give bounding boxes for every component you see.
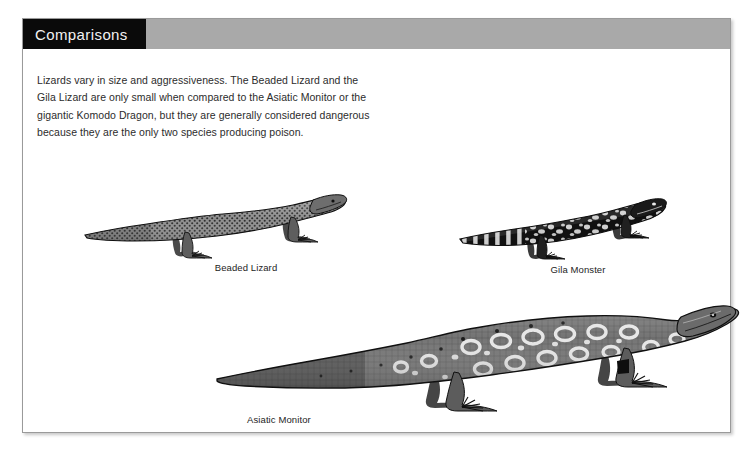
section-header-bar: Comparisons [23, 19, 730, 49]
figure-caption-gila-monster: Gila Monster [457, 264, 669, 275]
gila-monster-illustration [457, 195, 669, 261]
intro-paragraph: Lizards vary in size and aggressiveness.… [37, 72, 377, 142]
figure-caption-beaded-lizard: Beaded Lizard [81, 262, 349, 273]
section-title-block: Comparisons [23, 19, 146, 49]
document-page: Comparisons Lizards vary in size and agg… [22, 18, 731, 433]
page-title: Comparisons [35, 26, 128, 43]
figure-caption-asiatic-monitor: Asiatic Monitor [215, 414, 741, 425]
asiatic-monitor-illustration [215, 287, 741, 413]
beaded-lizard-illustration [81, 187, 349, 259]
figure-asiatic-monitor: Asiatic Monitor [215, 287, 741, 425]
figure-beaded-lizard: Beaded Lizard [81, 187, 349, 273]
figure-gila-monster: Gila Monster [457, 195, 669, 275]
